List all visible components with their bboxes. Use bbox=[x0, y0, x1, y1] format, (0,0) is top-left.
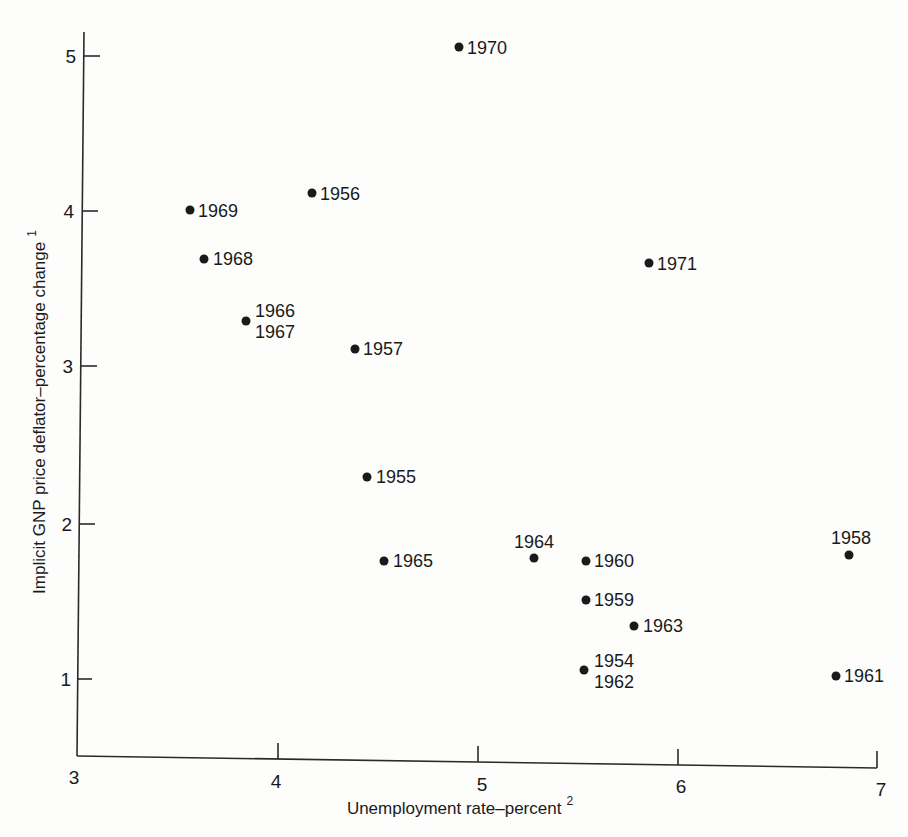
point-1968: 1968 bbox=[200, 249, 254, 269]
point-1970: 1970 bbox=[455, 38, 508, 58]
y-axis bbox=[77, 32, 100, 756]
svg-text:1970: 1970 bbox=[467, 38, 507, 58]
x-axis-title: Unemployment rate–percent2 bbox=[347, 794, 574, 818]
svg-text:1969: 1969 bbox=[198, 201, 238, 221]
svg-text:1968: 1968 bbox=[213, 249, 253, 269]
svg-text:1965: 1965 bbox=[393, 551, 433, 571]
svg-text:1959: 1959 bbox=[594, 590, 634, 610]
svg-text:1960: 1960 bbox=[594, 551, 634, 571]
svg-text:1966: 1966 bbox=[255, 301, 295, 321]
y-tick-1: 1 bbox=[60, 669, 71, 690]
point-1971: 1971 bbox=[645, 254, 698, 274]
point-1966-1967: 19661967 bbox=[242, 301, 296, 342]
y-tick-3: 3 bbox=[62, 356, 73, 377]
point-1960: 1960 bbox=[582, 551, 635, 571]
point-1959: 1959 bbox=[582, 590, 635, 610]
point-1969: 1969 bbox=[186, 201, 239, 221]
data-points: 1970 1956 1969 1968 1971 19661967 1957 1… bbox=[186, 38, 885, 692]
y-tick-4: 4 bbox=[63, 201, 74, 222]
scatter-chart: 5 4 3 2 1 3 4 5 6 7 Unemployment rate–pe… bbox=[0, 0, 908, 837]
point-1954-1962: 19541962 bbox=[580, 651, 635, 692]
svg-text:1963: 1963 bbox=[643, 616, 683, 636]
x-tick-3: 3 bbox=[69, 767, 80, 788]
y-tick-2: 2 bbox=[61, 514, 72, 535]
x-tick-5: 5 bbox=[477, 774, 488, 795]
x-tick-7: 7 bbox=[876, 779, 887, 800]
y-axis-title: Implicit GNP price deflator–percentage c… bbox=[25, 230, 49, 594]
y-tick-labels: 5 4 3 2 1 bbox=[60, 46, 76, 690]
svg-text:1958: 1958 bbox=[831, 528, 871, 548]
point-1957: 1957 bbox=[351, 339, 404, 359]
svg-text:1964: 1964 bbox=[514, 532, 554, 552]
svg-text:1957: 1957 bbox=[363, 339, 403, 359]
y-tick-5: 5 bbox=[65, 46, 76, 67]
x-tick-6: 6 bbox=[676, 776, 687, 797]
svg-text:1955: 1955 bbox=[376, 467, 416, 487]
svg-text:1971: 1971 bbox=[657, 254, 697, 274]
svg-text:1954: 1954 bbox=[594, 651, 634, 671]
point-1965: 1965 bbox=[380, 551, 434, 571]
point-1963: 1963 bbox=[630, 616, 684, 636]
svg-text:1961: 1961 bbox=[844, 666, 884, 686]
x-tick-labels: 3 4 5 6 7 bbox=[69, 767, 887, 800]
point-1956: 1956 bbox=[308, 184, 361, 204]
svg-text:1956: 1956 bbox=[320, 184, 360, 204]
svg-text:1962: 1962 bbox=[594, 672, 634, 692]
point-1955: 1955 bbox=[363, 467, 417, 487]
x-axis bbox=[77, 743, 877, 768]
point-1964: 1964 bbox=[514, 532, 554, 563]
x-tick-4: 4 bbox=[271, 771, 282, 792]
point-1961: 1961 bbox=[832, 666, 885, 686]
svg-text:1967: 1967 bbox=[255, 322, 295, 342]
point-1958: 1958 bbox=[831, 528, 871, 560]
